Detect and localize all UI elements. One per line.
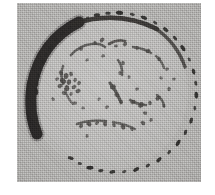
granule — [63, 73, 68, 80]
granule — [143, 111, 148, 115]
granule — [58, 70, 64, 77]
granule — [55, 77, 60, 81]
granule — [75, 88, 81, 93]
figure-root — [0, 0, 215, 195]
granule — [79, 47, 84, 51]
granule — [119, 99, 124, 105]
granule — [120, 124, 126, 131]
granule — [162, 104, 165, 108]
granule — [114, 92, 121, 98]
granule — [69, 91, 74, 96]
granule — [135, 46, 139, 51]
granule — [64, 85, 69, 91]
granule — [135, 87, 140, 91]
granule — [148, 100, 152, 105]
granule — [69, 71, 74, 76]
granule — [51, 96, 56, 101]
granule — [121, 60, 125, 65]
granule — [137, 101, 144, 109]
granule-layer — [17, 3, 201, 182]
granule — [78, 123, 84, 129]
cytoplasmic-granules — [51, 37, 177, 138]
micrograph-plate — [17, 3, 201, 182]
granule — [118, 71, 122, 76]
granule — [130, 126, 135, 131]
granule — [154, 95, 161, 102]
granule — [130, 99, 136, 105]
granule — [165, 67, 170, 71]
granule — [140, 120, 146, 126]
granule — [105, 105, 110, 110]
granule — [101, 54, 106, 58]
granule — [85, 58, 90, 62]
granule — [103, 121, 107, 126]
granule — [109, 84, 116, 91]
granule — [94, 120, 100, 125]
granule — [85, 121, 92, 128]
granule — [93, 41, 97, 46]
granule — [85, 134, 88, 138]
granule — [159, 76, 164, 81]
granule — [67, 79, 72, 85]
granule — [145, 48, 151, 54]
granule — [73, 77, 78, 82]
granule — [71, 84, 77, 90]
granule — [112, 122, 117, 128]
granule — [172, 77, 176, 81]
granule — [81, 106, 85, 109]
granule — [167, 87, 170, 91]
granule — [99, 37, 105, 44]
granule — [122, 41, 128, 47]
granule — [61, 90, 67, 96]
granule — [114, 44, 118, 47]
granule — [97, 97, 101, 102]
granule — [157, 56, 162, 61]
granule — [73, 101, 78, 105]
granule — [127, 75, 130, 79]
granule — [149, 117, 154, 122]
granule — [76, 80, 81, 86]
granule — [57, 83, 63, 88]
